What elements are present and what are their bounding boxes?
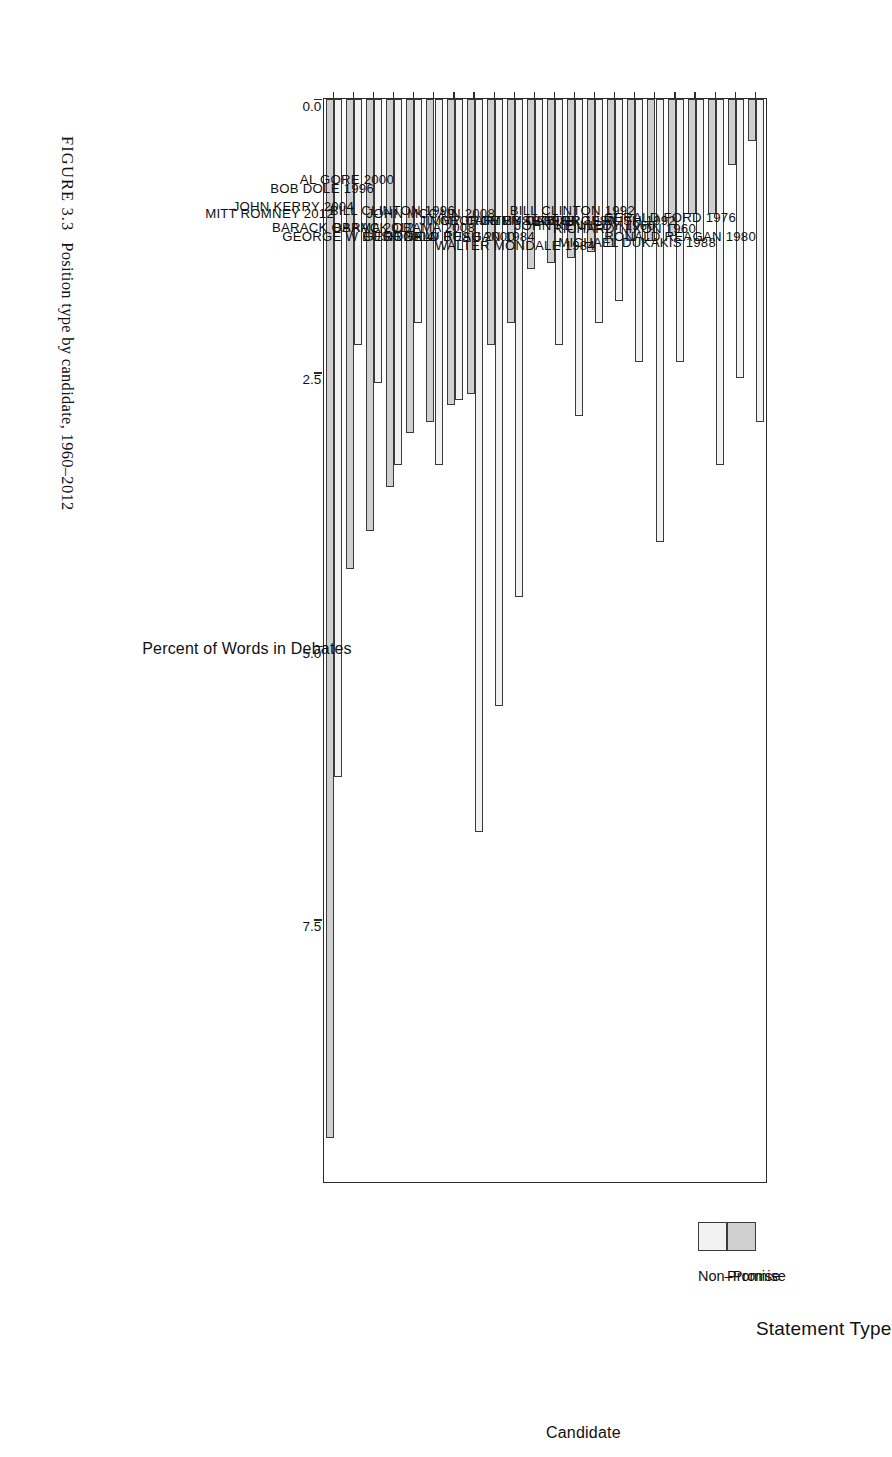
- category-tick: [654, 92, 655, 99]
- plot-area: [324, 99, 766, 1182]
- bar-nonpromise: [615, 99, 623, 301]
- bar-promise: [748, 99, 756, 141]
- category-tick: [715, 92, 716, 99]
- category-tick: [433, 92, 434, 99]
- category-tick: [594, 92, 595, 99]
- category-label: BARACK OBAMA 2012: [272, 220, 414, 235]
- legend-swatch: [698, 1222, 727, 1251]
- category-label: MITT ROMNEY 2012: [205, 206, 334, 221]
- chart-panel: RONALD REAGAN 1980GERALD FORD 1976MICHAE…: [323, 98, 767, 1183]
- value-tick-label: 2.5: [303, 372, 322, 387]
- category-tick: [755, 92, 756, 99]
- legend-title: Statement Type: [756, 1318, 892, 1340]
- bar-promise: [346, 99, 354, 569]
- bar-promise: [326, 99, 334, 1138]
- figure-caption-text: Position type by candidate, 1960–2012: [58, 242, 77, 510]
- value-axis-title: Percent of Words in Debates: [142, 640, 352, 658]
- category-tick: [514, 92, 515, 99]
- bar-promise: [708, 99, 716, 214]
- category-tick: [735, 92, 736, 99]
- category-label: BOB DOLE 1996: [271, 181, 375, 196]
- value-tick-label: 0.0: [303, 99, 322, 114]
- category-tick: [474, 92, 475, 99]
- bar-nonpromise: [716, 99, 724, 465]
- category-tick: [534, 92, 535, 99]
- bar-nonpromise: [394, 99, 402, 465]
- figure-caption: FIGURE 3.3Position type by candidate, 19…: [57, 136, 77, 511]
- bar-nonpromise: [656, 99, 664, 542]
- bar-nonpromise: [435, 99, 443, 465]
- bar-promise: [366, 99, 374, 531]
- figure-number: FIGURE 3.3: [58, 136, 77, 231]
- category-tick: [634, 92, 635, 99]
- category-tick: [373, 92, 374, 99]
- bar-promise: [688, 99, 696, 214]
- bar-promise: [406, 99, 414, 433]
- category-tick: [353, 92, 354, 99]
- category-tick: [674, 92, 675, 99]
- category-tick: [614, 92, 615, 99]
- bar-nonpromise: [575, 99, 583, 416]
- category-tick: [333, 92, 334, 99]
- bar-nonpromise: [515, 99, 523, 597]
- legend-label-row: PromiseNon–Promise: [698, 1262, 756, 1291]
- bar-promise: [728, 99, 736, 165]
- category-tick: [393, 92, 394, 99]
- bar-nonpromise: [756, 99, 764, 422]
- bar-nonpromise: [495, 99, 503, 706]
- category-tick: [574, 92, 575, 99]
- legend-item-label: Non–Promise: [698, 1262, 727, 1291]
- category-tick: [554, 92, 555, 99]
- category-axis-title: Candidate: [546, 1424, 621, 1442]
- category-tick: [695, 92, 696, 99]
- legend-swatch-row: [698, 1222, 756, 1251]
- bar-promise: [426, 99, 434, 422]
- value-tick-label: 7.5: [303, 919, 322, 934]
- category-tick: [453, 92, 454, 99]
- category-tick: [413, 92, 414, 99]
- legend-swatch: [727, 1222, 756, 1251]
- category-tick: [494, 92, 495, 99]
- bar-promise: [386, 99, 394, 487]
